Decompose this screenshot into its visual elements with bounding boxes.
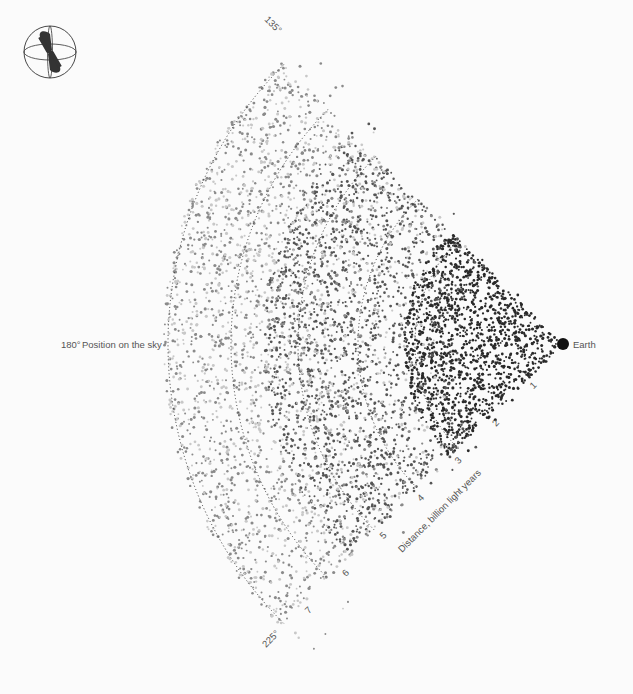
position-axis-label: Position on the sky bbox=[82, 339, 162, 350]
distance-ticks: 1234567 bbox=[302, 379, 538, 615]
distance-tick-5: 5 bbox=[377, 529, 389, 541]
distance-tick-1: 1 bbox=[527, 379, 539, 391]
distance-tick-3: 3 bbox=[452, 454, 464, 466]
distance-tick-4: 4 bbox=[415, 492, 427, 504]
wedge-chart: 1234567 Earth 180° Position on the sky 1… bbox=[0, 0, 633, 694]
globe-orientation-icon bbox=[24, 26, 76, 78]
earth-marker bbox=[557, 338, 569, 350]
distance-tick-7: 7 bbox=[302, 604, 314, 616]
angle-180-label: 180° bbox=[61, 339, 81, 350]
earth-label: Earth bbox=[573, 339, 596, 350]
angle-225-label: 225° bbox=[260, 628, 282, 650]
galaxy-dots bbox=[163, 62, 560, 650]
angle-135-label: 135° bbox=[263, 14, 285, 36]
distance-tick-6: 6 bbox=[340, 567, 352, 579]
